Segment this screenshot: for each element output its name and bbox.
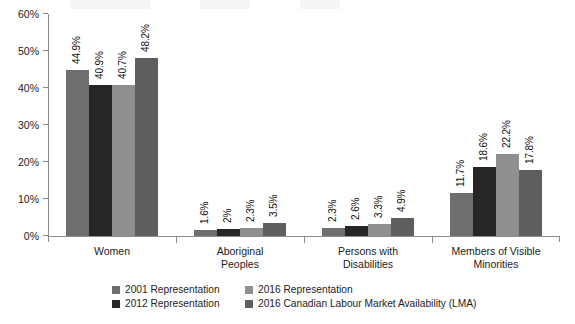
- bar-rect: [368, 224, 391, 236]
- y-axis-tick-label: 50%: [18, 44, 39, 58]
- bar-value-label: 4.9%: [397, 189, 407, 211]
- bar-rect: [345, 226, 368, 236]
- y-axis-tick-label: 40%: [18, 81, 39, 95]
- legend-label: 2016 Representation: [258, 283, 353, 297]
- category-label-line: Members of Visible: [432, 245, 560, 258]
- bar-rect: [66, 70, 89, 236]
- bar: 22.2%: [496, 14, 519, 236]
- category-label-line: Aboriginal: [176, 245, 304, 258]
- bar-group: 2.3%2.6%3.3%4.9%: [322, 14, 414, 236]
- y-axis-tick: 10%: [0, 192, 48, 206]
- legend-label: 2012 Representation: [125, 297, 220, 311]
- bar-value-label: 44.9%: [72, 36, 82, 64]
- bar-group: 44.9%40.9%40.7%48.2%: [66, 14, 158, 236]
- bar-value-label: 40.7%: [118, 52, 128, 80]
- legend-label: 2001 Representation: [125, 283, 220, 297]
- bar-value-label: 22.2%: [502, 120, 512, 148]
- y-axis-tick-label: 10%: [18, 192, 39, 206]
- y-axis-tick: 50%: [0, 44, 48, 58]
- bar: 11.7%: [450, 14, 473, 236]
- bar: 44.9%: [66, 14, 89, 236]
- bar: 2.6%: [345, 14, 368, 236]
- y-axis-tick: 60%: [0, 7, 48, 21]
- legend-swatch-icon: [245, 300, 253, 308]
- bar: 18.6%: [473, 14, 496, 236]
- y-axis-tick: 20%: [0, 155, 48, 169]
- bar-chart: 0%10%20%30%40%50%60% 44.9%40.9%40.7%48.2…: [0, 0, 575, 324]
- x-axis-left-cap: [48, 236, 49, 242]
- bar-rect: [473, 167, 496, 236]
- bar-value-label: 2.6%: [351, 198, 361, 220]
- bar-rect: [112, 85, 135, 236]
- bar-rect: [391, 218, 414, 236]
- bar-value-label: 48.2%: [141, 24, 151, 52]
- y-axis-tick-label: 60%: [18, 7, 39, 21]
- bar-value-label: 17.8%: [525, 136, 535, 164]
- x-axis-category-label: Persons withDisabilities: [304, 245, 432, 271]
- bar-group-bars: 1.6%2%2.3%3.5%: [194, 14, 286, 236]
- bar-value-label: 40.9%: [95, 51, 105, 79]
- bar: 48.2%: [135, 14, 158, 236]
- x-axis-category-label: Members of VisibleMinorities: [432, 245, 560, 271]
- bar-rect: [519, 170, 542, 236]
- x-axis-category-label: Women: [48, 245, 176, 258]
- bar: 3.5%: [263, 14, 286, 236]
- bar-rect: [194, 230, 217, 236]
- bar: 2%: [217, 14, 240, 236]
- bar-group: 1.6%2%2.3%3.5%: [194, 14, 286, 236]
- x-axis-right-cap: [559, 236, 560, 242]
- y-axis-tick: 0%: [0, 229, 48, 243]
- y-axis-tick-label: 30%: [18, 118, 39, 132]
- y-axis-tick-label: 0%: [24, 229, 39, 243]
- x-axis-group-separator: [304, 236, 305, 243]
- bar-value-label: 3.5%: [269, 195, 279, 217]
- category-label-line: Disabilities: [304, 258, 432, 271]
- bar: 40.9%: [89, 14, 112, 236]
- bar-value-label: 1.6%: [200, 202, 210, 224]
- chart-legend: 2001 Representation 2016 Representation …: [112, 283, 572, 311]
- x-axis-category-label: AboriginalPeoples: [176, 245, 304, 271]
- bar: 2.3%: [322, 14, 345, 236]
- bar-group: 11.7%18.6%22.2%17.8%: [450, 14, 542, 236]
- bar-rect: [240, 228, 263, 237]
- bar-value-label: 3.3%: [374, 195, 384, 217]
- bar-rect: [135, 58, 158, 236]
- legend-item-2016-lma: 2016 Canadian Labour Market Availability…: [245, 297, 476, 311]
- category-label-line: Minorities: [432, 258, 560, 271]
- bar: 4.9%: [391, 14, 414, 236]
- bar-group-bars: 11.7%18.6%22.2%17.8%: [450, 14, 542, 236]
- bar-value-label: 2%: [223, 208, 233, 222]
- bar-rect: [496, 154, 519, 236]
- legend-item-2016-representation: 2016 Representation: [245, 283, 353, 297]
- scan-artifact: [0, 0, 575, 9]
- bar: 2.3%: [240, 14, 263, 236]
- bar-group-bars: 44.9%40.9%40.7%48.2%: [66, 14, 158, 236]
- category-label-line: Persons with: [304, 245, 432, 258]
- category-label-line: Women: [48, 245, 176, 258]
- bar-rect: [322, 228, 345, 237]
- legend-swatch-icon: [112, 286, 120, 294]
- legend-row: 2001 Representation 2016 Representation: [112, 283, 572, 297]
- y-axis-tick-label: 20%: [18, 155, 39, 169]
- legend-label: 2016 Canadian Labour Market Availability…: [258, 297, 476, 311]
- legend-swatch-icon: [112, 300, 120, 308]
- bar: 40.7%: [112, 14, 135, 236]
- bar: 17.8%: [519, 14, 542, 236]
- bar-group-bars: 2.3%2.6%3.3%4.9%: [322, 14, 414, 236]
- bar: 3.3%: [368, 14, 391, 236]
- x-axis-group-separator: [176, 236, 177, 243]
- x-axis-group-separator: [432, 236, 433, 243]
- legend-row: 2012 Representation 2016 Canadian Labour…: [112, 297, 572, 311]
- legend-item-2012-representation: 2012 Representation: [112, 297, 245, 311]
- y-axis-tick: 40%: [0, 81, 48, 95]
- bar-rect: [89, 85, 112, 236]
- bar-value-label: 18.6%: [479, 133, 489, 161]
- bar-value-label: 2.3%: [246, 199, 256, 221]
- bar-rect: [217, 229, 240, 236]
- bar-rect: [450, 193, 473, 236]
- legend-swatch-icon: [245, 286, 253, 294]
- legend-item-2001-representation: 2001 Representation: [112, 283, 245, 297]
- bar: 1.6%: [194, 14, 217, 236]
- category-label-line: Peoples: [176, 258, 304, 271]
- bar-value-label: 2.3%: [328, 199, 338, 221]
